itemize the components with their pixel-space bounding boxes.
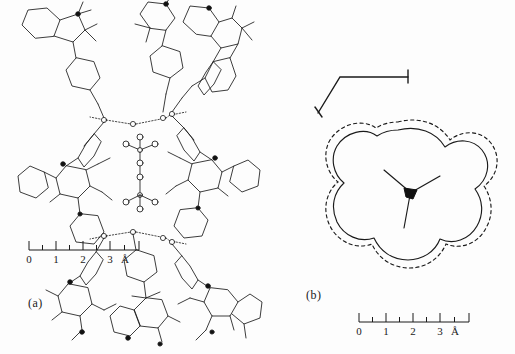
molecule-arm-top-right [172,6,254,112]
molecule-arm-top-center [135,0,183,112]
panel-a-caption: (a) [28,296,43,311]
scalebar-a-ticks [28,240,140,252]
scalebar-b-tick-3: 3 [437,325,443,337]
panel-a-molecular-packing: 0 1 2 3 Å (a) [0,0,280,354]
central-guest-molecule [123,134,158,212]
scalebar-b-unit: Å [451,325,459,337]
central-atom-group [384,170,440,228]
scalebar-b-tick-0: 0 [356,325,362,337]
scalebar-a-tick-2: 2 [80,253,86,265]
scalebar-b-tick-2: 2 [410,325,416,337]
panel-b-caption: (b) [306,288,322,303]
scalebar-b-ticks [358,312,470,324]
panel-b-cavity-contour: x y [280,0,515,354]
molecule-arm-top-left [22,2,104,118]
scalebar-a-unit: Å [121,253,129,265]
bond-lower [404,195,410,228]
molecule-arm-bottom-right [172,244,262,340]
scalebar-a-tick-3: 3 [107,253,113,265]
figure-root: 0 1 2 3 Å (a) x y [0,0,515,354]
scalebar-a-tick-0: 0 [26,253,32,265]
scalebar-b-tick-1: 1 [383,325,389,337]
scalebar-panel-b: 0 1 2 3 Å [358,312,470,339]
molecule-arm-middle-right [166,116,260,238]
molecule-arm-middle-left [18,122,112,244]
scalebar-a-tick-1: 1 [53,253,59,265]
scalebar-panel-a: 0 1 2 3 Å [28,240,140,267]
hydrogen-bond-network-top [90,111,186,126]
central-atom-marker [404,188,417,199]
